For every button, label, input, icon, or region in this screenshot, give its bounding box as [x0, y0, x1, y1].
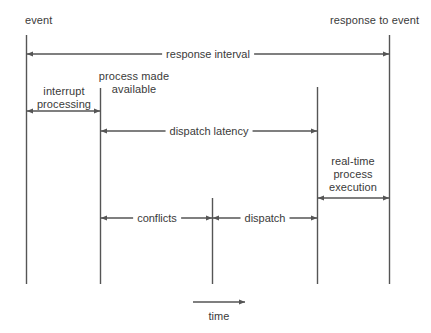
- label-interrupt-processing-line2: processing: [23, 98, 105, 111]
- label-event: event: [25, 14, 52, 27]
- label-response-to-event: response to event: [330, 14, 419, 27]
- dispatch-latency-diagram: event response to event process made ava…: [0, 0, 431, 333]
- label-interrupt-processing-line1: interrupt: [23, 85, 105, 98]
- label-response-interval: response interval: [162, 48, 254, 61]
- label-real-time-line3: execution: [313, 181, 393, 194]
- label-interrupt-processing: interrupt processing: [23, 85, 105, 111]
- label-real-time-line2: process: [313, 168, 393, 181]
- label-dispatch: dispatch: [241, 212, 290, 225]
- label-real-time-process-execution: real-time process execution: [313, 155, 393, 194]
- label-conflicts: conflicts: [133, 212, 181, 225]
- label-process-made-available-line1: process made: [74, 70, 194, 83]
- label-time-axis: time: [208, 310, 229, 323]
- label-dispatch-latency: dispatch latency: [166, 125, 253, 138]
- label-real-time-line1: real-time: [313, 155, 393, 168]
